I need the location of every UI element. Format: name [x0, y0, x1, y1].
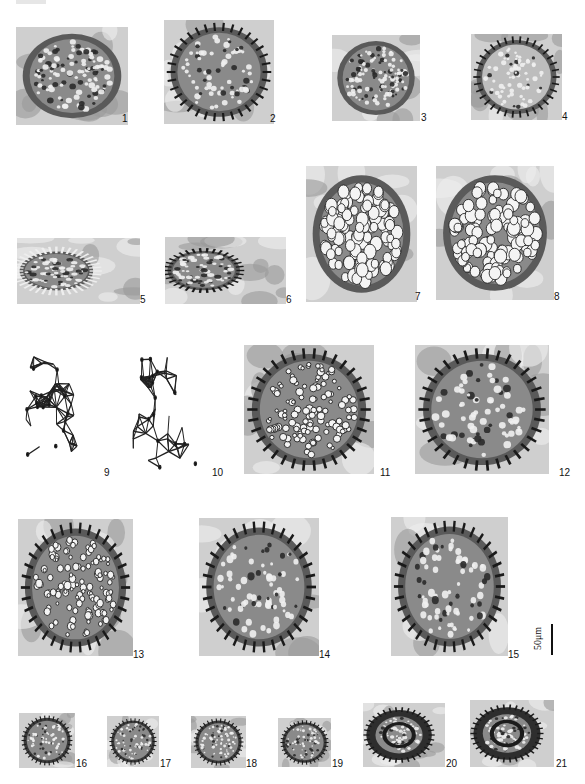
panel-label-6: 6	[286, 295, 292, 305]
specimen-panel-9	[16, 350, 106, 475]
panel-label-7: 7	[415, 292, 421, 302]
specimen-image	[107, 716, 159, 767]
specimen-panel-11	[244, 345, 374, 474]
specimen-image	[471, 34, 562, 120]
specimen-panel-14	[199, 518, 319, 656]
specimen-image	[18, 519, 133, 656]
panel-label-14: 14	[319, 650, 330, 660]
specimen-image	[19, 713, 75, 768]
panel-label-4: 4	[562, 112, 568, 122]
specimen-image	[278, 718, 331, 767]
panel-label-12: 12	[559, 468, 570, 478]
specimen-panel-10	[124, 349, 214, 475]
specimen-image	[199, 518, 319, 656]
panel-label-2: 2	[270, 114, 276, 124]
specimen-image	[17, 238, 140, 304]
specimen-image	[16, 350, 106, 475]
specimen-image	[191, 716, 246, 768]
specimen-image	[436, 166, 554, 300]
panel-label-16: 16	[76, 759, 87, 769]
specimen-panel-17	[107, 716, 159, 767]
specimen-panel-6	[165, 237, 286, 304]
specimen-image	[164, 20, 274, 124]
specimen-image	[470, 700, 554, 767]
panel-label-15: 15	[508, 650, 519, 660]
specimen-panel-1	[16, 27, 128, 125]
panel-label-10: 10	[212, 468, 223, 478]
panel-label-13: 13	[133, 650, 144, 660]
specimen-panel-3	[332, 35, 420, 121]
panel-label-19: 19	[332, 759, 343, 769]
specimen-image	[332, 35, 420, 121]
specimen-image	[16, 27, 128, 125]
specimen-panel-2	[164, 20, 274, 124]
specimen-panel-12	[415, 345, 549, 474]
panel-label-9: 9	[104, 468, 110, 478]
specimen-image	[306, 166, 417, 302]
header-artifact	[16, 0, 46, 4]
panel-label-18: 18	[246, 759, 257, 769]
specimen-panel-19	[278, 718, 331, 767]
specimen-image	[165, 237, 286, 304]
specimen-image	[363, 703, 445, 767]
specimen-panel-7	[306, 166, 417, 302]
specimen-image	[244, 345, 374, 474]
specimen-panel-13	[18, 519, 133, 656]
specimen-panel-15	[391, 517, 508, 656]
specimen-panel-5	[17, 238, 140, 304]
specimen-image	[391, 517, 508, 656]
panel-label-17: 17	[160, 759, 171, 769]
panel-label-1: 1	[122, 114, 128, 124]
panel-label-5: 5	[140, 295, 146, 305]
panel-label-21: 21	[556, 759, 567, 769]
panel-label-11: 11	[380, 468, 390, 478]
specimen-panel-16	[19, 713, 75, 768]
specimen-panel-20	[363, 703, 445, 767]
specimen-panel-8	[436, 166, 554, 300]
panel-label-3: 3	[421, 113, 427, 123]
specimen-panel-4	[471, 34, 562, 120]
specimen-panel-21	[470, 700, 554, 767]
specimen-panel-18	[191, 716, 246, 768]
specimen-image	[415, 345, 549, 474]
scale-bar	[551, 624, 553, 655]
specimen-image	[124, 349, 214, 475]
scale-bar-label: 50μm	[532, 627, 543, 650]
panel-label-8: 8	[554, 292, 560, 302]
panel-label-20: 20	[446, 759, 457, 769]
